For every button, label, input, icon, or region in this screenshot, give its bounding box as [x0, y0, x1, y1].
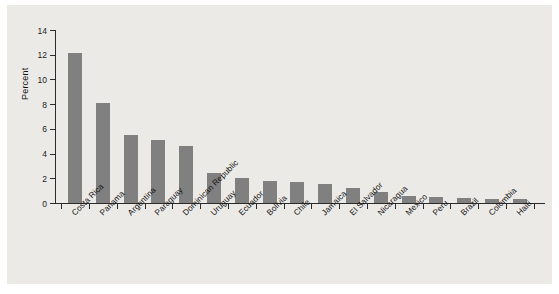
chart-figure: Percent 02468101214 Costa RicaPanamaArge…	[7, 5, 552, 284]
x-axis-labels: Costa RicaPanamaArgentinaParaguayDominic…	[55, 211, 555, 283]
x-tick	[506, 204, 507, 209]
y-axis-title: Percent	[20, 68, 30, 100]
bar	[68, 53, 82, 203]
y-tick-label: 12	[38, 51, 47, 60]
y-tick-label: 6	[42, 125, 47, 134]
y-tick-label: 10	[38, 76, 47, 85]
y-tick: 0	[50, 203, 55, 204]
y-tick-label: 0	[42, 199, 47, 208]
x-tick	[450, 204, 451, 209]
x-tick	[534, 204, 535, 209]
y-tick-label: 2	[42, 175, 47, 184]
y-tick-label: 8	[42, 100, 47, 109]
x-tick	[200, 204, 201, 209]
x-tick	[367, 204, 368, 209]
bar	[124, 135, 138, 203]
x-tick	[228, 204, 229, 209]
y-tick-label: 4	[42, 150, 47, 159]
x-tick	[172, 204, 173, 209]
bar	[235, 178, 249, 203]
y-tick-label: 14	[38, 26, 47, 35]
x-tick	[89, 204, 90, 209]
x-tick	[311, 204, 312, 209]
bars-layer	[55, 30, 545, 203]
x-tick	[61, 204, 62, 209]
x-tick	[478, 204, 479, 209]
x-tick	[339, 204, 340, 209]
